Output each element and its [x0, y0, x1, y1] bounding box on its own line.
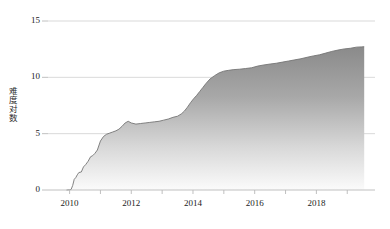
x-tick-label-2010: 2010	[56, 198, 84, 208]
area-series-difficulty	[67, 47, 365, 190]
y-axis-label-text: 难度对数	[8, 87, 17, 123]
x-tick-label-2016: 2016	[241, 198, 269, 208]
area-fill	[67, 47, 365, 190]
y-tick-label-15: 15	[14, 15, 40, 25]
difficulty-log-area-chart: 难度对数 051015 20102012201420162018	[0, 0, 390, 229]
x-tick-label-2014: 2014	[179, 198, 207, 208]
x-tick-label-2018: 2018	[302, 198, 330, 208]
x-tick-label-2012: 2012	[117, 198, 145, 208]
y-tick-label-0: 0	[14, 184, 40, 194]
chart-plot-area	[0, 0, 390, 229]
y-tick-label-5: 5	[14, 128, 40, 138]
x-tick-marks	[70, 190, 348, 194]
y-tick-label-10: 10	[14, 71, 40, 81]
